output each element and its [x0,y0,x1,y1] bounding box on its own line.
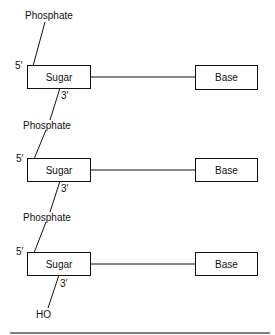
five-prime-label: 5′ [16,247,23,257]
three-prime-label: 3′ [61,184,68,194]
three-prime-label: 3′ [60,279,67,289]
phosphate-label: Phosphate [23,213,71,223]
sugar-box: Sugar [27,252,91,276]
base-box: Base [195,252,258,276]
five-prime-label: 5′ [15,61,22,71]
base-box: Base [195,158,258,182]
phosphate-label: Phosphate [23,121,71,131]
sugar-box: Sugar [27,65,91,89]
three-prime-label: 3′ [61,91,68,101]
terminal-ho-label: HO [36,310,51,320]
five-prime-label: 5′ [16,154,23,164]
phosphate-label: Phosphate [25,11,73,21]
sugar-box: Sugar [27,158,91,182]
base-box: Base [195,65,258,90]
